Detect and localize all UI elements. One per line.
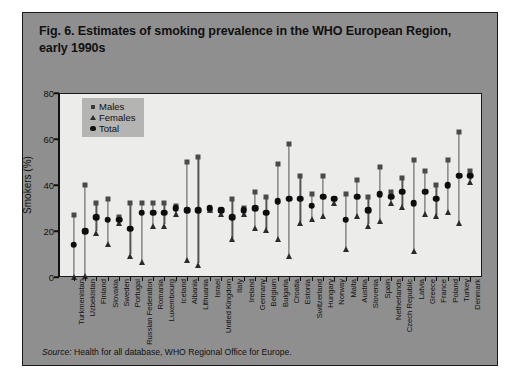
total-data-point: [286, 196, 293, 203]
x-tick-label: Greece: [428, 279, 437, 304]
total-data-point: [150, 209, 157, 216]
x-tick-label: Romania: [156, 279, 165, 309]
total-data-point: [82, 228, 89, 235]
females-data-point: [127, 253, 133, 259]
x-tick-mark: [74, 277, 75, 281]
females-data-point: [320, 213, 326, 219]
females-data-point: [343, 246, 349, 252]
total-data-point: [127, 225, 134, 232]
x-tick-label: Sweden: [122, 279, 131, 306]
males-data-point: [71, 212, 76, 217]
total-data-point: [456, 173, 463, 180]
legend-item: Females: [87, 112, 135, 123]
total-data-point: [172, 205, 179, 212]
source-label: Source:: [42, 347, 72, 357]
total-data-point: [342, 216, 349, 223]
x-tick-label: Croatia: [292, 279, 301, 303]
x-tick-label: Norway: [337, 279, 346, 305]
legend-item: Total: [87, 123, 135, 134]
y-tick-mark: [54, 92, 59, 94]
page-title: Fig. 6. Estimates of smoking prevalence …: [39, 23, 479, 56]
females-data-point: [105, 241, 111, 247]
x-tick-label: Germany: [258, 279, 267, 310]
x-tick-label: Hungary: [326, 279, 335, 308]
males-data-point: [366, 194, 371, 199]
y-tick-label: 40: [43, 180, 54, 191]
total-data-point: [161, 209, 168, 216]
females-data-point: [456, 220, 462, 226]
y-tick-mark: [54, 184, 59, 186]
legend-item: Males: [87, 101, 135, 112]
males-data-point: [230, 196, 235, 201]
x-tick-label: Iceland: [179, 279, 188, 304]
females-data-point: [286, 253, 292, 259]
total-data-point: [433, 196, 440, 203]
x-tick-label: Bulgaria: [281, 279, 290, 307]
females-data-point: [195, 262, 201, 268]
total-data-point: [444, 182, 451, 189]
y-tick-label: 80: [43, 88, 54, 99]
females-data-point: [365, 223, 371, 229]
x-tick-label: Albania: [190, 279, 199, 304]
total-data-point: [467, 173, 474, 180]
males-data-point: [423, 169, 428, 174]
total-data-point: [240, 207, 247, 214]
x-tick-label: Luxembourg: [167, 279, 176, 321]
males-data-point: [445, 157, 450, 162]
figure-panel: Fig. 6. Estimates of smoking prevalence …: [22, 12, 498, 366]
x-tick-label: Slovakia: [111, 279, 120, 308]
females-data-point: [252, 225, 258, 231]
females-data-point: [173, 211, 179, 217]
males-data-point: [105, 196, 110, 201]
females-data-point: [411, 248, 417, 254]
x-tick-label: Latvia: [417, 279, 426, 299]
y-axis-label: Smokers (%): [22, 156, 33, 214]
source-note: Source: Health for all database, WHO Reg…: [42, 347, 292, 357]
males-data-point: [185, 160, 190, 165]
males-data-point: [94, 201, 99, 206]
males-data-point: [377, 164, 382, 169]
males-data-point: [83, 183, 88, 188]
x-tick-label: Denmark: [473, 279, 482, 310]
x-tick-label: Israel: [213, 279, 222, 298]
total-data-point: [263, 209, 270, 216]
females-data-point: [377, 218, 383, 224]
source-text: Health for all database, WHO Regional Of…: [72, 347, 292, 357]
total-data-point: [308, 202, 315, 209]
females-data-point: [445, 209, 451, 215]
x-tick-label: Spain: [383, 279, 392, 298]
females-data-point: [184, 257, 190, 263]
females-data-point: [309, 216, 315, 222]
x-tick-label: Portugal: [133, 279, 142, 307]
y-tick-mark: [54, 230, 59, 232]
x-tick-label: Russian Federation: [145, 279, 154, 345]
x-tick-label: United Kingdom: [224, 279, 233, 333]
total-data-point: [206, 205, 213, 212]
females-data-point: [388, 200, 394, 206]
males-data-point: [355, 178, 360, 183]
males-data-point: [196, 155, 201, 160]
total-data-point: [184, 207, 191, 214]
x-tick-label: Austria: [360, 279, 369, 303]
total-data-point: [252, 205, 259, 212]
x-tick-label: Malta: [349, 279, 358, 298]
plot-container: Smokers (%) 020406080 MalesFemalesTotal …: [58, 93, 482, 277]
males-data-point: [309, 192, 314, 197]
total-data-point: [274, 198, 281, 205]
males-data-point: [321, 173, 326, 178]
females-data-point: [275, 236, 281, 242]
males-data-point: [298, 173, 303, 178]
chart-legend: MalesFemalesTotal: [82, 98, 144, 137]
males-data-point: [400, 176, 405, 181]
x-tick-label: Czech Republic: [405, 279, 414, 332]
x-tick-label: Lithuania: [201, 279, 210, 310]
x-tick-label: France: [439, 279, 448, 303]
females-data-point: [354, 213, 360, 219]
x-tick-label: Uzbekistan: [88, 279, 97, 317]
males-data-point: [264, 194, 269, 199]
x-tick-label: Slovenia: [371, 279, 380, 308]
y-tick-label: 60: [43, 134, 54, 145]
females-data-point: [433, 213, 439, 219]
males-data-point: [434, 183, 439, 188]
total-data-point: [388, 193, 395, 200]
